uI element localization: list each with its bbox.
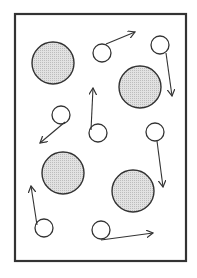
velocity-arrow-icon xyxy=(91,88,93,130)
small-particle-circle xyxy=(151,36,169,54)
small-particle-circle xyxy=(92,221,110,239)
large-particle-3 xyxy=(42,152,84,194)
small-particle-1 xyxy=(93,32,135,62)
small-particle-3 xyxy=(40,106,70,143)
large-particle-2 xyxy=(119,66,161,108)
velocity-arrow-icon xyxy=(166,53,172,96)
velocity-arrow-icon xyxy=(31,186,37,225)
small-particle-4 xyxy=(89,88,107,142)
small-particle-6 xyxy=(31,186,53,237)
large-particle-4 xyxy=(112,170,154,212)
velocity-arrow-icon xyxy=(106,32,135,44)
velocity-arrow-icon xyxy=(157,141,163,187)
large-particle-1 xyxy=(32,42,74,84)
particle-diagram xyxy=(0,0,197,278)
small-particle-circle xyxy=(146,123,164,141)
small-particle-circle xyxy=(93,44,111,62)
small-particle-circle xyxy=(35,219,53,237)
small-particle-circle xyxy=(52,106,70,124)
velocity-arrow-icon xyxy=(40,122,65,143)
small-particle-7 xyxy=(92,221,153,240)
